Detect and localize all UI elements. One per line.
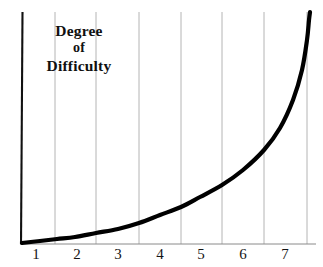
- x-tick-label-5: 5: [191, 246, 211, 263]
- x-tick-label-1: 1: [26, 246, 46, 263]
- chart-plot-area: [0, 0, 323, 267]
- x-tick-label-3: 3: [108, 246, 128, 263]
- x-tick-label-4: 4: [150, 246, 170, 263]
- x-tick-label-6: 6: [233, 246, 253, 263]
- chart-figure: Degree of Difficulty 1234567: [0, 0, 323, 267]
- x-tick-label-2: 2: [67, 246, 87, 263]
- x-tick-label-7: 7: [275, 246, 295, 263]
- y-axis-line: [21, 12, 23, 244]
